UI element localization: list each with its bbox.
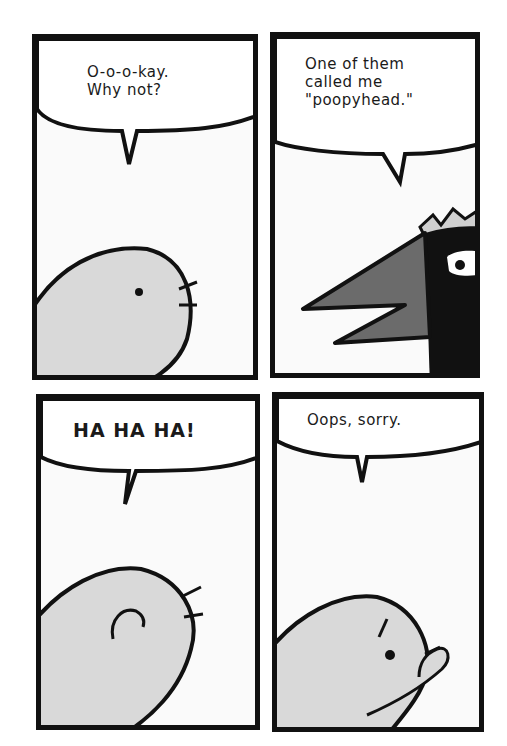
bird-pupil <box>455 260 465 270</box>
panel-4-art <box>277 397 484 732</box>
comic-panel-2: One of them called me "poopyhead." <box>270 32 480 378</box>
creature-eye <box>135 288 143 296</box>
speech-text-1: O-o-o-kay. Why not? <box>87 63 169 99</box>
speech-text-4: Oops, sorry. <box>307 411 401 429</box>
speech-bubble-4 <box>277 397 484 482</box>
comic-panel-4: Oops, sorry. <box>272 392 484 732</box>
creature-body <box>41 568 194 730</box>
bird-body <box>425 226 480 378</box>
speech-text-3: HA HA HA! <box>73 421 196 439</box>
speech-bubble-3 <box>41 399 260 504</box>
comic-panel-3: HA HA HA! <box>36 394 260 730</box>
speech-bubble-1 <box>37 39 258 164</box>
bird-beak <box>303 233 430 343</box>
panel-3-art <box>41 399 260 730</box>
creature-body <box>37 248 191 380</box>
speech-text-2: One of them called me "poopyhead." <box>305 55 413 109</box>
creature-body <box>277 596 428 732</box>
creature-eye <box>385 650 395 660</box>
comic-panel-1: O-o-o-kay. Why not? <box>32 34 258 380</box>
